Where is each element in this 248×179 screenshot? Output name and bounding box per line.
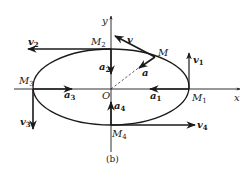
point-label-m: M xyxy=(157,47,169,58)
velocity-label-v4: v4 xyxy=(197,119,208,132)
acceleration-label-a4: a4 xyxy=(114,100,125,113)
acceleration-label-a2: a2 xyxy=(99,61,110,74)
velocity-vector-v xyxy=(115,36,155,57)
radius-dashed-line xyxy=(111,66,141,89)
acceleration-label-a: a xyxy=(142,67,148,78)
y-axis-label: y xyxy=(101,15,108,26)
velocity-label-v2: v2 xyxy=(28,36,39,49)
point-label-m1: M1 xyxy=(191,92,207,105)
velocity-label-v: v xyxy=(127,34,133,45)
point-label-m3: M3 xyxy=(18,75,34,88)
velocity-label-v3: v3 xyxy=(20,116,31,129)
acceleration-label-a3: a3 xyxy=(64,89,75,102)
velocity-label-v1: v1 xyxy=(193,54,204,67)
figure-caption: (b) xyxy=(106,154,119,164)
x-axis-label: x xyxy=(234,92,240,103)
point-label-m2: M2 xyxy=(90,36,106,49)
acceleration-label-a1: a1 xyxy=(150,90,161,103)
point-label-m4: M4 xyxy=(111,128,127,141)
ellipse-motion-diagram: y x O M M1 M2 M3 M4 v v1 v2 v3 v4 a a1 a… xyxy=(0,0,248,179)
origin-label: O xyxy=(102,90,110,101)
